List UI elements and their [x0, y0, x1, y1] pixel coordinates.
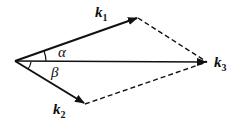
dashed-edge-k2-k3 — [85, 62, 207, 104]
dashed-edge-k1-k3 — [138, 18, 207, 62]
label-beta: β — [51, 64, 58, 81]
angle-arc-alpha — [44, 51, 46, 61]
label-k1: k1 — [95, 4, 108, 23]
angle-arc-beta — [28, 62, 31, 69]
vector-k3 — [15, 61, 206, 62]
vector-diagram: k1 k3 k2 α β — [0, 0, 239, 122]
label-alpha: α — [58, 44, 66, 61]
vector-k1 — [15, 18, 137, 61]
label-k3: k3 — [214, 54, 227, 73]
diagram-svg — [0, 0, 239, 122]
vector-k2 — [15, 61, 84, 103]
label-k2: k2 — [53, 101, 66, 120]
